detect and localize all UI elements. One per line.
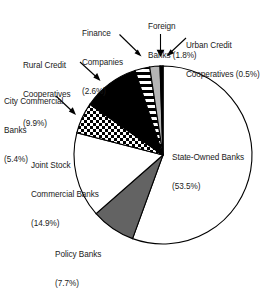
callout-policy-banks: Policy Banks (7.7%) <box>55 231 117 292</box>
label-urban-credit-line1: Urban Credit <box>186 41 272 51</box>
label-policy-banks-line1: Policy Banks <box>55 250 117 260</box>
label-state-owned-line2: (53.5%) <box>172 182 264 192</box>
label-city-commercial-line1: City Commercial <box>4 97 76 107</box>
label-finance-companies-line1: Finance <box>82 29 140 39</box>
label-rural-credit-line1: Rural Credit <box>23 61 91 71</box>
callout-urban-credit-cooperatives: Urban Credit Cooperatives (0.5%) <box>186 22 272 99</box>
label-urban-credit-line2: Cooperatives (0.5%) <box>186 70 272 80</box>
callout-state-owned-banks: State-Owned Banks (53.5%) <box>172 134 264 211</box>
label-joint-stock-line1: Joint Stock <box>31 161 115 171</box>
label-state-owned-line1: State-Owned Banks <box>172 153 264 163</box>
label-city-commercial-line2: Banks <box>4 126 76 136</box>
label-joint-stock-line3: (14.9%) <box>31 219 115 229</box>
label-policy-banks-line2: (7.7%) <box>55 279 117 289</box>
label-joint-stock-line2: Commercial Banks <box>31 190 115 200</box>
